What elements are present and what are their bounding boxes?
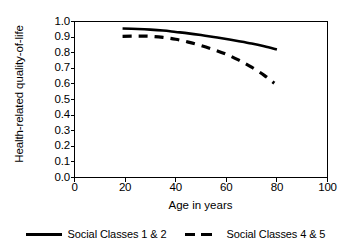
x-tick-label: 100 xyxy=(308,181,348,194)
y-tick-label: 0.4 xyxy=(44,109,70,121)
x-tick-labels: 020406080100 xyxy=(0,181,351,197)
x-tick-label: 80 xyxy=(257,181,297,194)
x-axis-title: Age in years xyxy=(74,198,327,212)
y-tick-labels: 0.00.10.20.30.40.50.60.70.80.91.0 xyxy=(44,0,70,250)
y-tick-label: 0.1 xyxy=(44,156,70,168)
y-tick-label: 1.0 xyxy=(44,16,70,28)
y-tick-label: 0.6 xyxy=(44,78,70,90)
chart-figure: Health-related quality-of-life 0.00.10.2… xyxy=(0,0,351,250)
y-tick-label: 0.8 xyxy=(44,47,70,59)
y-tick-label: 0.5 xyxy=(44,94,70,106)
data-series xyxy=(123,29,277,84)
y-axis-title: Health-related quality-of-life xyxy=(9,4,29,184)
y-tick-label: 0.9 xyxy=(44,31,70,43)
y-tick-label: 0.2 xyxy=(44,140,70,152)
legend-label: Social Classes 1 & 2 xyxy=(68,228,167,240)
solid-line-icon xyxy=(26,229,62,239)
dashed-line-icon xyxy=(185,229,221,239)
x-tick-label: 40 xyxy=(156,181,196,194)
axis-ticks xyxy=(71,22,328,182)
series-line-1 xyxy=(123,29,277,50)
legend-item-2: Social Classes 4 & 5 xyxy=(185,228,326,240)
x-tick-label: 20 xyxy=(105,181,145,194)
y-tick-label: 0.7 xyxy=(44,62,70,74)
y-tick-label: 0.3 xyxy=(44,125,70,137)
legend-item-1: Social Classes 1 & 2 xyxy=(26,228,167,240)
x-tick-label: 60 xyxy=(206,181,246,194)
axis-frame xyxy=(75,22,328,178)
x-tick-label: 0 xyxy=(55,181,95,194)
legend-label: Social Classes 4 & 5 xyxy=(227,228,326,240)
chart-legend: Social Classes 1 & 2Social Classes 4 & 5 xyxy=(0,224,351,244)
